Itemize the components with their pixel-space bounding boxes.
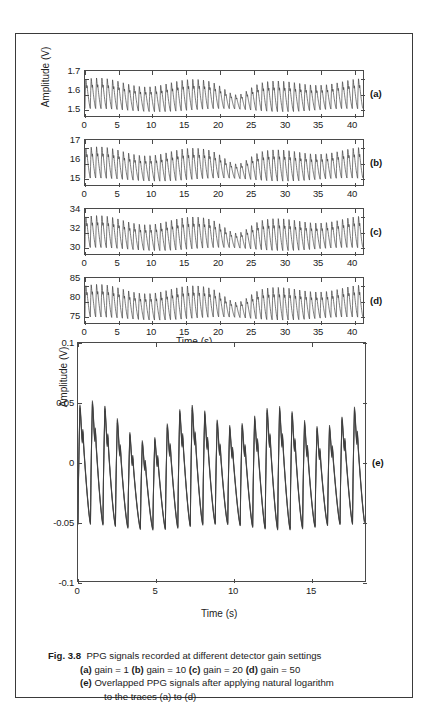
panel-b-ytick-15: 15 [54,172,80,183]
panel-a-plot-box [84,70,364,117]
axis-tick [186,114,187,118]
caption-ref-d: (d) [246,664,258,675]
panel-c-xtick-25: 25 [241,257,261,268]
panel-b-xtick-5: 5 [107,188,127,199]
axis-tick [78,583,82,584]
axis-tick [287,140,288,144]
axis-tick [287,114,288,118]
axis-tick [361,95,365,96]
axis-tick [361,164,365,165]
panel-a-ytick-1.6: 1.6 [54,84,80,95]
axis-tick [254,209,255,213]
time-axis-label-e: Time (s) [201,608,237,619]
axis-tick [287,321,288,325]
axis-tick [254,71,255,75]
panel-e-traces [78,343,365,581]
axis-tick [287,183,288,187]
panel-e-xtick-0: 0 [67,585,87,596]
axis-tick [78,463,82,464]
axis-tick [85,278,86,282]
panel-a-ytick-1.5: 1.5 [54,103,80,114]
caption-gain-b: gain = 10 [144,664,189,675]
panel-c-xtick-30: 30 [275,257,295,268]
panel-d-ytick-75: 75 [54,310,80,321]
axis-tick [220,140,221,144]
panel-d-xtick-10: 10 [141,326,161,337]
axis-tick [355,140,356,144]
axis-tick [220,321,221,325]
axis-tick [85,95,89,96]
axis-tick [85,110,89,111]
axis-tick [355,114,356,118]
panel-e-ytick-0: 0 [36,457,74,468]
panel-a-xtick-35: 35 [308,119,328,130]
panel-c-xtick-40: 40 [342,257,362,268]
axis-tick [355,252,356,256]
panel-a-ytick-1.7: 1.7 [54,65,80,76]
panel-e-plot-box [77,342,366,582]
axis-tick [152,140,153,144]
axis-tick [361,217,365,218]
figure-caption: Fig. 3.8 PPG signals recorded at differe… [48,649,398,703]
axis-tick [85,71,86,75]
axis-tick [321,140,322,144]
caption-gain-a: gain = 1 [92,664,132,675]
caption-line-2: (a) gain = 1 (b) gain = 10 (c) gain = 20… [48,663,398,677]
panel-d-label: (d) [370,295,382,306]
caption-ref-b: (b) [131,664,143,675]
axis-tick [85,183,86,187]
axis-tick [355,71,356,75]
panel-d-ytick-80: 80 [54,291,80,302]
axis-tick [363,403,367,404]
axis-tick [152,209,153,213]
axis-tick [152,71,153,75]
axis-tick [156,343,157,347]
panel-a-xtick-30: 30 [275,119,295,130]
panel-a-xtick-15: 15 [174,119,194,130]
panel-d-xtick-35: 35 [308,326,328,337]
panel-b-trace [85,140,363,185]
panel-d-xtick-40: 40 [342,326,362,337]
axis-tick [220,278,221,282]
axis-tick [287,252,288,256]
axis-tick [234,579,235,583]
panel-d-plot-box [84,277,364,324]
axis-tick [287,71,288,75]
panel-b-plot-box [84,139,364,186]
panel-d-trace [85,278,363,323]
panel-c-xtick-10: 10 [141,257,161,268]
panel-c-label: (c) [370,226,382,237]
panel-a-xtick-20: 20 [208,119,228,130]
axis-tick [119,278,120,282]
axis-tick [186,71,187,75]
axis-tick [85,114,86,118]
panel-b-xtick-25: 25 [241,188,261,199]
axis-tick [85,179,89,180]
panel-c-ytick-30: 30 [54,241,80,252]
axis-tick [220,114,221,118]
panel-c-xtick-5: 5 [107,257,127,268]
caption-line-1-text: PPG signals recorded at different detect… [86,650,321,661]
panel-e-xtick-10: 10 [223,585,243,596]
panel-a-xtick-25: 25 [241,119,261,130]
axis-tick [254,140,255,144]
axis-tick [186,140,187,144]
axis-tick [312,579,313,583]
axis-tick [186,209,187,213]
panel-b-ytick-17: 17 [54,134,80,145]
axis-tick [254,278,255,282]
caption-line-3: (e) Overlapped PPG signals after applyin… [48,676,398,690]
panel-b-label: (b) [370,157,382,168]
axis-tick [78,523,82,524]
caption-line-1: Fig. 3.8 PPG signals recorded at differe… [48,649,398,663]
axis-tick [85,233,89,234]
axis-tick [361,233,365,234]
panel-a-xtick-0: 0 [74,119,94,130]
caption-gain-c: gain = 20 [201,664,246,675]
axis-tick [355,183,356,187]
panel-e-xtick-5: 5 [145,585,165,596]
axis-tick [361,79,365,80]
panel-a-xtick-40: 40 [342,119,362,130]
caption-line-4: to the traces (a) to (d) [48,690,398,704]
panel-a-xtick-10: 10 [141,119,161,130]
